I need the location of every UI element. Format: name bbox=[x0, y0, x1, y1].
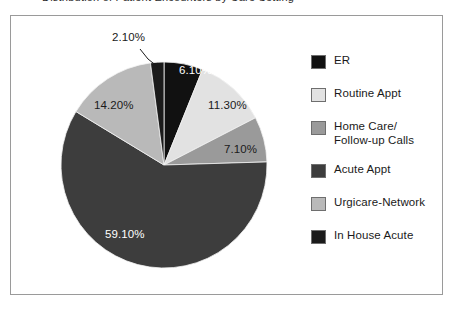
legend-item-er[interactable]: ER bbox=[311, 54, 444, 69]
legend-label-urgicare-network: Urgicare-Network bbox=[334, 196, 425, 210]
pie-slice-group bbox=[61, 62, 267, 268]
legend-swatch-acute-appt bbox=[311, 164, 326, 178]
slice-label-in-house-acute: 2.10% bbox=[112, 31, 145, 43]
slice-label-routine-appt: 11.30% bbox=[208, 99, 247, 111]
legend-label-in-house-acute: In House Acute bbox=[334, 229, 413, 243]
legend-label-home-care: Home Care/ Follow-up Calls bbox=[334, 120, 414, 147]
pie-chart: 6.10% 11.30% 7.10% 59.10% 14.20% 2.10% bbox=[11, 16, 311, 296]
slice-label-home-care: 7.10% bbox=[224, 143, 257, 155]
pie-svg bbox=[11, 16, 311, 296]
legend-label-acute-appt: Acute Appt bbox=[334, 163, 391, 177]
legend-item-acute-appt[interactable]: Acute Appt bbox=[311, 163, 444, 178]
legend-swatch-urgicare-network bbox=[311, 197, 326, 211]
legend-label-er: ER bbox=[334, 54, 350, 68]
chart-frame: 6.10% 11.30% 7.10% 59.10% 14.20% 2.10% E… bbox=[10, 15, 443, 295]
legend-item-urgicare-network[interactable]: Urgicare-Network bbox=[311, 196, 444, 211]
page-title: Distribution of Patient Encounters by Ca… bbox=[42, 0, 294, 3]
legend-label-routine-appt: Routine Appt bbox=[334, 87, 401, 101]
chart-title-strip: Distribution of Patient Encounters by Ca… bbox=[0, 0, 454, 6]
legend-item-in-house-acute[interactable]: In House Acute bbox=[311, 229, 444, 244]
chart-canvas: Distribution of Patient Encounters by Ca… bbox=[0, 0, 454, 311]
legend-swatch-er bbox=[311, 55, 326, 69]
legend-item-home-care[interactable]: Home Care/ Follow-up Calls bbox=[311, 120, 444, 147]
slice-label-urgicare-network: 14.20% bbox=[94, 99, 134, 111]
legend-swatch-in-house-acute bbox=[311, 230, 326, 244]
slice-label-acute-appt: 59.10% bbox=[105, 228, 145, 240]
legend: ER Routine Appt Home Care/ Follow-up Cal… bbox=[311, 54, 444, 262]
legend-swatch-home-care bbox=[311, 121, 326, 135]
legend-item-routine-appt[interactable]: Routine Appt bbox=[311, 87, 444, 102]
legend-swatch-routine-appt bbox=[311, 88, 326, 102]
slice-label-er: 6.10% bbox=[179, 64, 212, 76]
